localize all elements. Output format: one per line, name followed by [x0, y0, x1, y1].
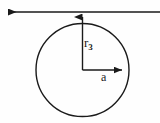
- diagram-svg: [0, 0, 160, 123]
- label-r3-subscript: 3: [88, 42, 93, 52]
- label-radius-r3: r3: [84, 36, 93, 52]
- label-radius-a: a: [101, 71, 106, 83]
- figure-canvas: r3 a: [0, 0, 160, 123]
